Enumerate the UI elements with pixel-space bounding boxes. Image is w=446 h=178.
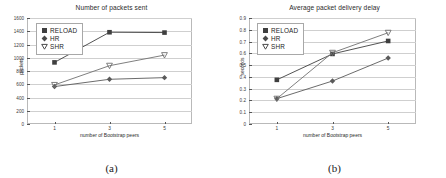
data-point-marker xyxy=(330,78,335,83)
x-tick-mark xyxy=(388,122,389,125)
plot-area-a: packets 02004006008001000120014001600 13… xyxy=(27,18,192,124)
x-axis-title-a: number of Bootstrap peers xyxy=(27,132,192,138)
square-marker-icon xyxy=(40,27,49,34)
subcaption-b: (b) xyxy=(223,162,446,174)
legend-label-hr: HR xyxy=(271,35,281,42)
chart-title-b: Average packet delivery delay xyxy=(223,4,446,11)
diamond-marker-icon xyxy=(40,35,49,42)
legend-item-reload: RELOAD xyxy=(261,27,298,35)
x-tick-label: 3 xyxy=(331,126,334,131)
legend-item-reload: RELOAD xyxy=(40,27,77,35)
x-tick-label: 1 xyxy=(275,126,278,131)
y-tick-label: 1200 xyxy=(14,42,24,47)
diamond-marker-icon xyxy=(261,35,270,42)
subcaption-a: (a) xyxy=(0,162,223,174)
y-tick-label: 0.7 xyxy=(240,39,246,44)
y-tick-label: 1000 xyxy=(14,55,24,60)
y-tick-label: 600 xyxy=(16,82,24,87)
y-tick-label: 0.9 xyxy=(240,16,246,21)
y-tick-label: 200 xyxy=(16,108,24,113)
panel-a: Number of packets sent packets 020040060… xyxy=(0,0,223,178)
y-tick-label: 1400 xyxy=(14,29,24,34)
x-tick-mark xyxy=(55,122,56,125)
triangle-down-marker-icon xyxy=(261,43,270,50)
legend-label-reload: RELOAD xyxy=(271,27,298,34)
data-point-marker xyxy=(162,75,167,80)
y-tick-label: 0 xyxy=(21,122,24,127)
legend-item-hr: HR xyxy=(40,35,77,43)
legend-label-reload: RELOAD xyxy=(50,27,77,34)
y-tick-mark xyxy=(249,124,252,125)
plot-area-b: seconds 00.10.20.30.40.50.60.70.80.9 135… xyxy=(249,18,416,124)
y-tick-label: 0.1 xyxy=(240,110,246,115)
x-tick-mark xyxy=(110,122,111,125)
x-tick-mark xyxy=(333,122,334,125)
y-tick-label: 1600 xyxy=(14,16,24,21)
legend-item-hr: HR xyxy=(261,35,298,43)
square-marker-icon xyxy=(261,27,270,34)
x-tick-label: 3 xyxy=(108,126,111,131)
y-tick-label: 0 xyxy=(243,122,246,127)
legend-label-hr: HR xyxy=(50,35,60,42)
y-tick-label: 0.5 xyxy=(240,63,246,68)
x-tick-label: 5 xyxy=(163,126,166,131)
data-point-marker xyxy=(162,30,167,35)
x-tick-label: 1 xyxy=(53,126,56,131)
y-tick-mark xyxy=(27,124,30,125)
data-point-marker xyxy=(52,60,57,65)
legend-label-shr: SHR xyxy=(271,43,285,50)
legend-label-shr: SHR xyxy=(50,43,64,50)
legend-a: RELOAD HR SHR xyxy=(36,23,83,55)
y-tick-label: 0.4 xyxy=(240,74,246,79)
y-tick-label: 0.8 xyxy=(240,27,246,32)
data-point-marker xyxy=(386,39,391,44)
y-tick-label: 0.6 xyxy=(240,51,246,56)
y-tick-label: 0.3 xyxy=(240,86,246,91)
chart-title-a: Number of packets sent xyxy=(0,4,223,11)
x-tick-label: 5 xyxy=(387,126,390,131)
data-point-marker xyxy=(107,30,112,35)
legend-item-shr: SHR xyxy=(40,43,77,51)
data-point-marker xyxy=(385,55,390,60)
y-tick-label: 400 xyxy=(16,95,24,100)
legend-b: RELOAD HR SHR xyxy=(257,23,304,55)
y-tick-label: 800 xyxy=(16,69,24,74)
data-point-marker xyxy=(107,77,112,82)
x-axis-title-b: number of Bootstrap peers xyxy=(249,132,416,138)
x-tick-mark xyxy=(277,122,278,125)
data-point-marker xyxy=(275,78,280,83)
legend-item-shr: SHR xyxy=(261,43,298,51)
figure-pair: Number of packets sent packets 020040060… xyxy=(0,0,446,178)
x-tick-mark xyxy=(165,122,166,125)
triangle-down-marker-icon xyxy=(40,43,49,50)
panel-b: Average packet delivery delay seconds 00… xyxy=(223,0,446,178)
y-tick-label: 0.2 xyxy=(240,98,246,103)
